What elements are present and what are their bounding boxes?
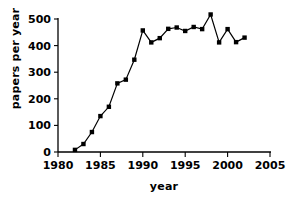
y-tick-label: 300 xyxy=(28,66,51,79)
data-series-papers-per-year xyxy=(73,12,247,152)
chart-container: 0100200300400500 19801985199019952000200… xyxy=(0,0,289,202)
x-axis-title: year xyxy=(58,180,270,193)
data-point-marker xyxy=(158,36,162,40)
y-tick-label: 0 xyxy=(43,146,51,159)
x-tick-label: 1985 xyxy=(85,159,116,172)
data-point-marker xyxy=(107,105,111,109)
y-tick-label: 400 xyxy=(28,40,51,53)
data-point-marker xyxy=(234,40,238,44)
y-tick-label: 100 xyxy=(28,119,51,132)
data-point-marker xyxy=(81,142,85,146)
data-point-marker xyxy=(73,148,77,152)
data-point-marker xyxy=(217,40,221,44)
data-point-marker xyxy=(242,35,246,39)
x-tick-label: 1990 xyxy=(127,159,158,172)
line-chart-plot: 0100200300400500 19801985199019952000200… xyxy=(0,0,289,202)
y-tick-label: 500 xyxy=(28,13,51,26)
data-point-marker xyxy=(132,58,136,62)
data-point-marker xyxy=(166,27,170,31)
data-point-marker xyxy=(124,77,128,81)
data-point-marker xyxy=(115,81,119,85)
x-tick-label: 2000 xyxy=(212,159,243,172)
y-tick-label: 200 xyxy=(28,93,51,106)
data-point-marker xyxy=(200,27,204,31)
y-axis: 0100200300400500 xyxy=(28,13,58,159)
data-point-marker xyxy=(141,28,145,32)
x-axis: 198019851990199520002005 xyxy=(43,152,286,172)
x-tick-label: 2005 xyxy=(255,159,286,172)
data-point-marker xyxy=(90,130,94,134)
data-point-marker xyxy=(183,29,187,33)
data-point-marker xyxy=(98,114,102,118)
data-point-marker xyxy=(225,27,229,31)
data-point-marker xyxy=(191,25,195,29)
y-axis-title: papers per year xyxy=(9,0,22,119)
data-point-marker xyxy=(208,12,212,16)
x-tick-label: 1980 xyxy=(43,159,74,172)
data-point-marker xyxy=(175,25,179,29)
x-tick-label: 1995 xyxy=(170,159,201,172)
data-point-marker xyxy=(149,40,153,44)
series-polyline xyxy=(75,14,245,149)
